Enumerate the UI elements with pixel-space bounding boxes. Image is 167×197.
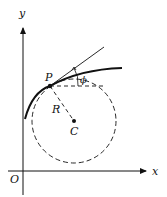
angle-arc [74, 68, 78, 86]
point-c [72, 119, 76, 123]
point-p [48, 84, 52, 88]
x-axis-label: x [152, 165, 159, 178]
angle-label: ϕ [80, 74, 87, 85]
point-p-label: P [44, 71, 53, 84]
y-axis-label: y [18, 7, 26, 20]
origin-label: O [10, 173, 19, 186]
curvature-diagram: y x O P R C ϕ [0, 0, 167, 197]
curve [25, 68, 122, 119]
center-label: C [70, 125, 79, 138]
radius-label: R [51, 103, 60, 116]
tangent-line [50, 47, 104, 86]
